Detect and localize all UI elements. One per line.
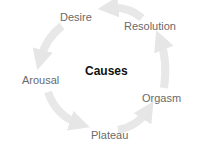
arrow-orgasm-to-resolution bbox=[160, 40, 165, 88]
stage-desire: Desire bbox=[60, 12, 92, 23]
center-label: Causes bbox=[85, 65, 128, 77]
arrow-desire-to-arousal bbox=[40, 26, 62, 60]
stage-orgasm: Orgasm bbox=[142, 93, 181, 104]
stage-arousal: Arousal bbox=[22, 75, 59, 86]
arrow-plateau-to-orgasm bbox=[118, 110, 148, 130]
arrow-arousal-to-plateau bbox=[48, 92, 80, 124]
stage-resolution: Resolution bbox=[124, 21, 176, 32]
stage-plateau: Plateau bbox=[91, 130, 128, 141]
arrow-resolution-to-desire bbox=[108, 8, 142, 18]
